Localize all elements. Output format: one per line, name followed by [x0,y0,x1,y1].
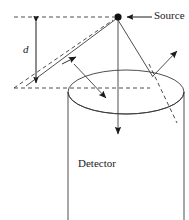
construction-lines [14,17,177,123]
detector-label: Detector [78,158,116,169]
ray-paths [26,19,177,134]
radiation-detector-diagram: Source d Detector [0,0,189,220]
distance-label: d [23,44,29,55]
scattered-ray-arrow [153,51,177,76]
source-point-marker [114,13,121,20]
detector-cylinder [68,70,184,220]
oblique-ray-line [26,19,116,86]
cylinder-front-curve [68,92,184,114]
dashed-transmitted-ray [149,64,177,123]
incident-ray-to-scatter-point [118,20,153,77]
source-label: Source [154,10,185,21]
perpendicular-ray-arrow [74,64,106,98]
diagram-canvas [0,0,189,220]
